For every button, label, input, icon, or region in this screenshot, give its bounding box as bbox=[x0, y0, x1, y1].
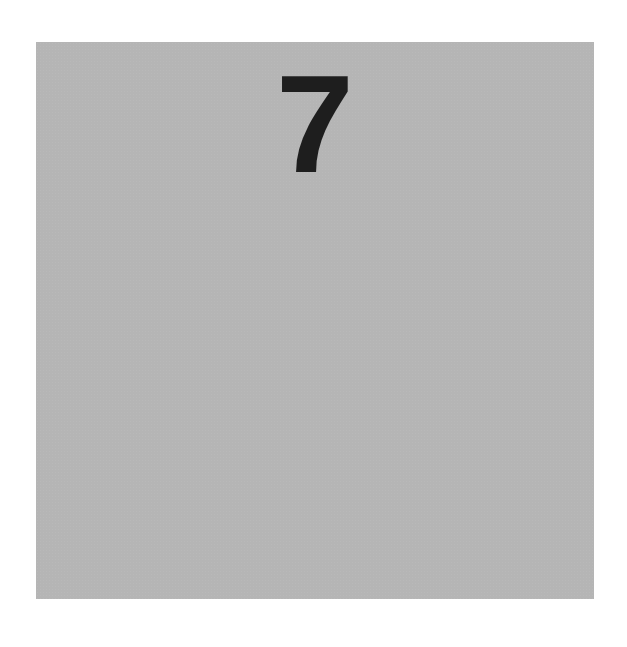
numbered-card: 7 bbox=[36, 42, 594, 599]
card-number: 7 bbox=[36, 54, 594, 194]
